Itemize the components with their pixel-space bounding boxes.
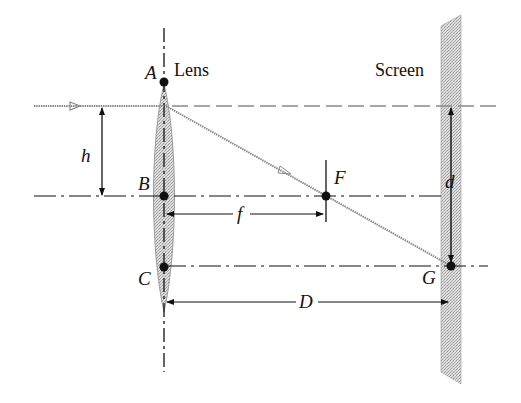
lens-diagram: A Lens Screen h B F d f C G D xyxy=(0,0,521,403)
label-h: h xyxy=(81,145,91,166)
label-d-distance: D xyxy=(298,291,313,312)
label-g: G xyxy=(422,267,436,288)
label-f-point: F xyxy=(333,167,346,188)
label-f-length: f xyxy=(237,203,245,224)
label-d-offset: d xyxy=(445,171,455,192)
label-a: A xyxy=(143,62,157,83)
label-screen: Screen xyxy=(375,60,424,80)
point-g xyxy=(447,262,456,271)
point-f xyxy=(322,192,331,201)
label-b: B xyxy=(138,173,150,194)
refracted-ray xyxy=(166,106,451,266)
label-lens: Lens xyxy=(174,60,209,80)
point-a xyxy=(160,78,169,87)
point-c xyxy=(160,263,169,272)
point-b xyxy=(160,192,169,201)
label-c: C xyxy=(138,268,151,289)
